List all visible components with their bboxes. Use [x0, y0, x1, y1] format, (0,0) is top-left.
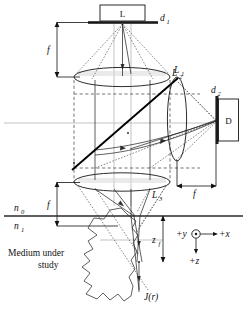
index-n0-label: n: [14, 203, 19, 213]
dimension-focus-depth: z f: [151, 216, 165, 263]
current-density-group: J(r): [144, 292, 158, 303]
detector-group: D d 2: [211, 85, 239, 144]
current-density-label: J(r): [144, 292, 158, 303]
index-n1-subscript: 1: [21, 226, 24, 233]
source-to-l1-rays: [76, 24, 169, 79]
dimension-focal-right-label: f: [193, 189, 197, 199]
medium-label-line1: Medium under: [8, 248, 65, 258]
dimension-depth-label: z: [151, 235, 156, 245]
aperture-d2-subscript: 2: [218, 90, 222, 97]
aperture-d1-subscript: 1: [167, 18, 170, 25]
index-n1-label: n: [14, 221, 19, 231]
axis-x-label: +x: [219, 229, 230, 239]
axis-z-label: +z: [189, 256, 199, 266]
splitter-to-detector-rays: [73, 80, 216, 168]
dimension-focal-bottom-label: f: [47, 200, 51, 210]
aperture-d2-label: d: [211, 85, 216, 95]
detector-label: D: [225, 116, 232, 126]
aperture-d2-bar: [215, 96, 218, 144]
aperture-d1-label: d: [160, 13, 165, 23]
dimension-depth-subscript: f: [159, 240, 162, 247]
index-n0-subscript: 0: [21, 208, 25, 215]
lens-l3-group: L 3: [74, 173, 170, 202]
dimension-focal-top: f: [47, 22, 98, 78]
axis-x-arrow-icon: [213, 232, 218, 236]
aperture-d1-bar: [88, 21, 158, 24]
axis-y-label: +y: [176, 229, 187, 239]
interface-group: n 0 n 1: [4, 203, 243, 233]
medium-blob: [82, 208, 138, 301]
coordinate-axes-group: +y +x +z: [176, 229, 230, 266]
dimension-focal-top-label: f: [47, 45, 51, 55]
lens-l3-label: L: [151, 190, 157, 200]
light-source-label: L: [120, 9, 126, 19]
collimated-beam-outline: [74, 80, 200, 182]
axis-y-dot-icon: [195, 233, 198, 236]
light-source-group: L d 1: [88, 5, 170, 25]
dimension-focal-bottom: f: [47, 182, 118, 227]
axis-z-arrow-icon: [194, 249, 198, 254]
medium-label-line2: study: [38, 260, 59, 270]
diagram-canvas: L d 1 f L: [0, 0, 247, 314]
optical-diagram-figure: L d 1 f L: [0, 0, 247, 314]
lens-l2-label: L: [171, 68, 177, 78]
medium-blob-group: Medium under study: [8, 208, 138, 301]
lens-l2: [167, 77, 186, 161]
lens-l3-subscript: 3: [158, 195, 163, 202]
